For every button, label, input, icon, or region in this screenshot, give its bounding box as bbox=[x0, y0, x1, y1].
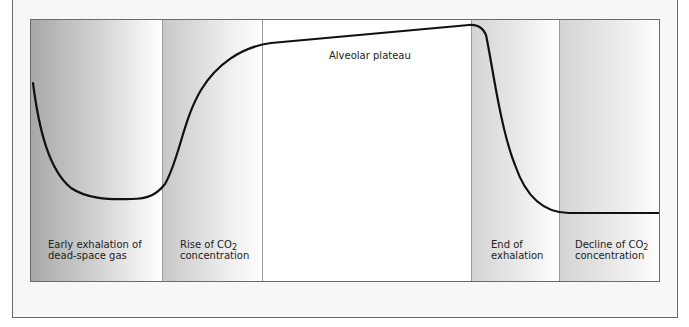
co2-curve bbox=[31, 20, 660, 282]
capnogram-chart: Early exhalation of dead-space gas Rise … bbox=[30, 19, 660, 282]
